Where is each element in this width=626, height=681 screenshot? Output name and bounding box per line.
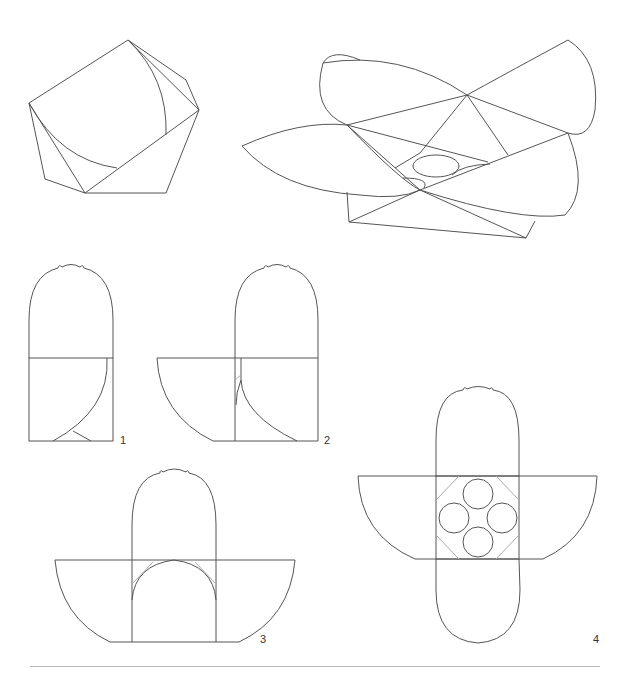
- step-1-label: 1: [120, 434, 126, 446]
- step-4-label: 4: [593, 633, 599, 645]
- step-3-net: [55, 469, 295, 642]
- step-3-label: 3: [260, 633, 266, 645]
- step-2-label: 2: [324, 434, 330, 446]
- step-4-net: [358, 387, 597, 644]
- bottom-divider: [30, 666, 600, 667]
- assembled-box-view: [29, 40, 199, 193]
- exploded-view: [242, 40, 596, 238]
- step-1-net: [29, 265, 113, 442]
- step-2-net: [157, 265, 318, 442]
- diagram-canvas: [0, 0, 626, 681]
